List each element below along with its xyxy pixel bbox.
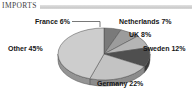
france-leader-line	[72, 22, 100, 28]
slice-label-sweden: Sweden 12%	[143, 45, 185, 52]
imports-pie-chart-figure: IMPORTS France 6% Netherlands 7% UK 8% S…	[0, 0, 192, 93]
slice-label-france: France 6%	[0, 18, 70, 25]
slice-label-netherlands: Netherlands 7%	[119, 18, 172, 25]
slice-label-uk: UK 8%	[129, 31, 151, 38]
slice-label-germany: Germany 22%	[97, 80, 143, 87]
slice-label-other: Other 45%	[8, 45, 43, 52]
